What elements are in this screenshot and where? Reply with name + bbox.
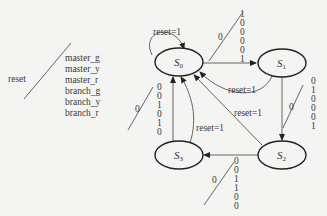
output-vector-s0-s1: 1 0 0 0 0 1 [240,9,245,64]
state-s0: S0 [155,48,203,76]
transition-label: reset=1 [196,123,224,133]
svg-text:0: 0 [234,201,239,211]
state-s3: S3 [155,141,203,169]
transition-label: reset=1 [234,108,262,118]
state-s2: S2 [258,141,306,169]
legend-output: master_g [65,53,100,63]
output-vector-s1-s2: 0 1 0 0 0 1 [311,76,316,131]
output-divider [209,12,243,61]
transition-s3-s0-reset [181,77,194,143]
legend-input-label: reset [8,74,26,84]
transition-input: 0 [289,102,294,112]
state-s1: S1 [258,49,306,77]
legend-output: branch_r [65,108,100,118]
transition-input: 0 [212,175,217,185]
output-vector-s3-s0: 0 0 1 0 1 0 [157,82,162,137]
output-divider [204,162,234,205]
svg-text:0: 0 [157,127,162,137]
output-divider [128,87,153,130]
legend-output: master_r [65,75,99,85]
state-diagram: reset master_g master_y master_r branch_… [0,0,327,216]
legend-output: branch_y [65,97,101,107]
transition-label: reset=1 [153,27,181,37]
legend-divider [24,43,71,99]
svg-text:1: 1 [240,54,245,64]
transition-input: 0 [218,32,223,42]
legend-output: branch_g [65,86,101,96]
transition-label: reset=1 [228,85,256,95]
output-vector-s2-s3: 0 0 1 1 0 0 [234,156,239,211]
svg-text:1: 1 [311,121,316,131]
legend-output: master_y [65,64,100,74]
transition-input: 0 [135,104,140,114]
legend-outputs: master_g master_y master_r branch_g bran… [65,53,101,118]
